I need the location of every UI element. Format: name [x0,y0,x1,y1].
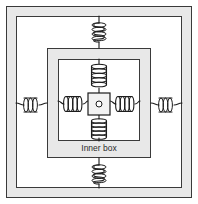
diagram-canvas: Inner box [0,0,198,204]
center-mass [88,93,110,115]
spring-mass-diagram: Inner box [0,0,198,204]
center-mass-dot [96,101,102,107]
inner-box-label: Inner box [81,143,117,153]
